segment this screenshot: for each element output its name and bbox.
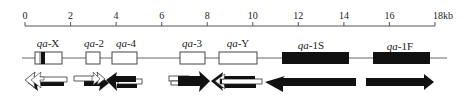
gene-label-qa-3: qa-3: [182, 37, 203, 49]
tick-label-8: 8: [205, 10, 210, 21]
gene-label-qa-4: qa-4: [116, 37, 137, 49]
gene-box-qa-1f: [373, 52, 430, 64]
tick-label-4: 4: [114, 10, 119, 21]
gene-label-qa-x: qa-X: [37, 37, 60, 49]
tick-label-14: 14: [339, 10, 349, 21]
kb-ruler: 0 2 4 6 8 10 12 14 16 18kb: [23, 10, 454, 26]
gene-box-qa-x: [35, 52, 62, 64]
arrow-qa-2: [74, 72, 109, 91]
arrow-left-black-icon: [106, 72, 136, 91]
arrow-qa-4: [106, 72, 142, 91]
arrow-qa-x: [25, 72, 67, 91]
gene-box-qa-1s: [282, 52, 349, 64]
gene-box-qa-2: [86, 52, 100, 64]
tick-label-0: 0: [23, 10, 28, 21]
gene-box-qa-3: [180, 52, 205, 64]
transcript-arrows: [25, 71, 434, 92]
gene-label-qa-2: qa-2: [84, 37, 104, 49]
gene-map-figure: 0 2 4 6 8 10 12 14 16 18kb qa-X qa-2 qa-…: [0, 0, 467, 103]
arrow-right-black-icon: [178, 71, 210, 92]
tick-label-2: 2: [68, 10, 73, 21]
gene-box-qa-x-band: [41, 52, 45, 64]
arrow-bar-white-icon: [220, 79, 262, 84]
tick-label-18kb: 18kb: [433, 10, 453, 21]
gene-box-qa-y: [219, 52, 257, 64]
tick-label-6: 6: [159, 10, 164, 21]
gene-label-qa-y: qa-Y: [227, 37, 250, 49]
gene-labels: qa-X qa-2 qa-4 qa-3 qa-Y qa-1S qa-1F: [37, 37, 413, 52]
gene-label-qa-1s: qa-1S: [298, 39, 324, 51]
arrow-qa-1s: [265, 76, 356, 92]
tick-label-16: 16: [384, 10, 394, 21]
arrow-qa-y: [211, 72, 262, 91]
gene-label-qa-1f: qa-1F: [387, 40, 413, 52]
arrow-qa-1f: [366, 74, 434, 90]
tick-label-12: 12: [293, 10, 303, 21]
gene-box-qa-4: [112, 52, 137, 64]
arrow-qa-3: [169, 71, 210, 92]
tick-label-10: 10: [248, 10, 258, 21]
